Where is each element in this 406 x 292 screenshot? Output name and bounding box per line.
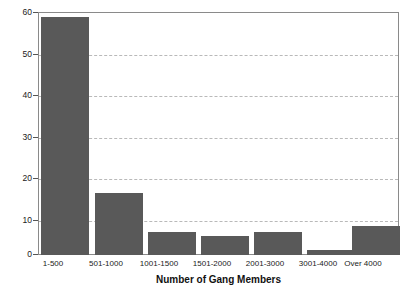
bars-layer xyxy=(38,12,399,255)
bar-over-4000 xyxy=(352,226,400,255)
y-tick-label-20: 20 xyxy=(2,173,32,183)
y-tick-label-10: 10 xyxy=(2,215,32,225)
bar-3001-4000 xyxy=(307,250,355,255)
bar-501-1000 xyxy=(95,193,143,255)
bar-1-500 xyxy=(41,17,89,255)
y-tick-label-40: 40 xyxy=(2,90,32,100)
x-tick-label-over-4000: Over 4000 xyxy=(328,259,398,268)
x-axis-title: Number of Gang Members xyxy=(38,274,399,285)
y-tick-label-50: 50 xyxy=(2,49,32,59)
y-tick-label-60: 60 xyxy=(2,7,32,17)
y-tick-label-0: 0 xyxy=(2,249,32,259)
bar-1001-1500 xyxy=(148,232,196,255)
bar-chart: Percent 60 50 40 30 20 10 0 1-500 501-10… xyxy=(0,0,406,292)
y-tick-label-30: 30 xyxy=(2,132,32,142)
bar-2001-3000 xyxy=(254,232,302,255)
bar-1501-2000 xyxy=(201,236,249,255)
